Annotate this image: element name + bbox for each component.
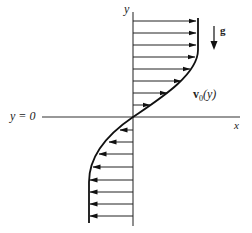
gravity-arrow-icon — [211, 26, 218, 50]
gravity-label: g — [220, 25, 226, 36]
profile-label-arg: (y) — [203, 87, 216, 101]
y-axis-label: y — [124, 3, 129, 15]
profile-label: v0(y) — [193, 88, 216, 103]
x-axis-label: x — [234, 120, 239, 131]
velocity-profile-diagram: y x y = 0 g v0(y) — [0, 0, 252, 233]
origin-label: y = 0 — [10, 110, 35, 122]
diagram-canvas — [0, 0, 252, 233]
velocity-arrows — [90, 21, 196, 216]
axes — [42, 12, 240, 226]
